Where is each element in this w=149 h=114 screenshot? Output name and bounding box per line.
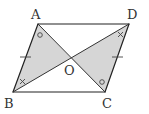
label-b: B xyxy=(4,96,14,111)
label-d: D xyxy=(127,7,137,22)
parallelogram-diagram: A D B C O xyxy=(0,0,149,114)
label-o: O xyxy=(64,63,75,78)
label-c: C xyxy=(102,96,112,111)
label-a: A xyxy=(30,7,41,22)
